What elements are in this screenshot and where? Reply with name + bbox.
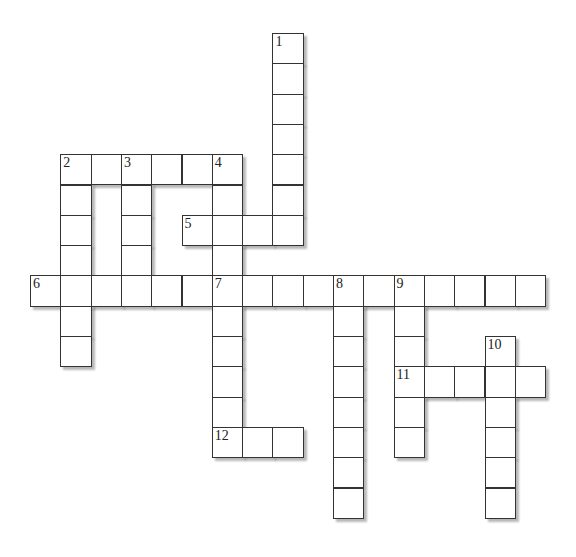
crossword-cell[interactable] — [60, 215, 91, 246]
crossword-cell[interactable] — [272, 215, 303, 246]
crossword-cell[interactable]: 10 — [485, 336, 516, 367]
crossword-cell[interactable] — [454, 275, 485, 306]
crossword-cell[interactable] — [182, 154, 213, 185]
crossword-cell[interactable] — [212, 245, 243, 276]
crossword-cell[interactable] — [60, 185, 91, 216]
crossword-cell[interactable] — [121, 185, 152, 216]
crossword-cell[interactable] — [60, 306, 91, 337]
crossword-cell[interactable] — [60, 245, 91, 276]
clue-number: 2 — [63, 155, 70, 171]
clue-number: 6 — [33, 276, 40, 292]
crossword-cell[interactable] — [333, 427, 364, 458]
clue-number: 7 — [215, 276, 222, 292]
crossword-cell[interactable] — [394, 336, 425, 367]
crossword-cell[interactable] — [121, 245, 152, 276]
crossword-cell[interactable] — [212, 397, 243, 428]
crossword-cell[interactable] — [272, 275, 303, 306]
crossword-cell[interactable]: 5 — [182, 215, 213, 246]
clue-number: 11 — [397, 367, 410, 383]
clue-number: 8 — [336, 276, 343, 292]
clue-number: 5 — [185, 216, 192, 232]
crossword-cell[interactable] — [485, 427, 516, 458]
crossword-cell[interactable]: 12 — [212, 427, 243, 458]
crossword-cell[interactable] — [272, 154, 303, 185]
crossword-cell[interactable]: 9 — [394, 275, 425, 306]
clue-number: 9 — [397, 276, 404, 292]
crossword-cell[interactable] — [333, 457, 364, 488]
crossword-cell[interactable] — [394, 306, 425, 337]
crossword-cell[interactable] — [333, 306, 364, 337]
crossword-cell[interactable] — [91, 275, 122, 306]
crossword-cell[interactable] — [242, 427, 273, 458]
crossword-cell[interactable] — [212, 366, 243, 397]
crossword-cell[interactable] — [515, 275, 546, 306]
crossword-cell[interactable] — [60, 336, 91, 367]
crossword-cell[interactable] — [485, 488, 516, 519]
crossword-cell[interactable] — [454, 366, 485, 397]
crossword-cell[interactable] — [212, 306, 243, 337]
crossword-cell[interactable] — [333, 366, 364, 397]
crossword-cell[interactable]: 11 — [394, 366, 425, 397]
crossword-cell[interactable] — [485, 275, 516, 306]
crossword-cell[interactable] — [60, 275, 91, 306]
clue-number: 1 — [275, 34, 282, 50]
crossword-cell[interactable] — [363, 275, 394, 306]
clue-number: 10 — [488, 337, 502, 353]
crossword-cell[interactable]: 8 — [333, 275, 364, 306]
crossword-cell[interactable] — [151, 154, 182, 185]
crossword-cell[interactable]: 4 — [212, 154, 243, 185]
clue-number: 12 — [215, 428, 229, 444]
crossword-cell[interactable] — [272, 185, 303, 216]
crossword-cell[interactable] — [272, 124, 303, 155]
crossword-cell[interactable] — [333, 488, 364, 519]
crossword-cell[interactable] — [212, 336, 243, 367]
crossword-cell[interactable] — [242, 275, 273, 306]
clue-number: 4 — [215, 155, 222, 171]
clue-number: 3 — [124, 155, 131, 171]
crossword-cell[interactable] — [485, 397, 516, 428]
crossword-cell[interactable] — [121, 275, 152, 306]
crossword-cell[interactable] — [182, 275, 213, 306]
crossword-cell[interactable] — [394, 427, 425, 458]
crossword-cell[interactable] — [424, 366, 455, 397]
crossword-cell[interactable]: 7 — [212, 275, 243, 306]
crossword-cell[interactable] — [394, 397, 425, 428]
crossword-cell[interactable] — [91, 154, 122, 185]
crossword-cell[interactable] — [485, 366, 516, 397]
crossword-cell[interactable]: 6 — [30, 275, 61, 306]
crossword-cell[interactable] — [272, 427, 303, 458]
crossword-cell[interactable]: 1 — [272, 33, 303, 64]
crossword-cell[interactable] — [212, 185, 243, 216]
crossword-cell[interactable] — [212, 215, 243, 246]
crossword-cell[interactable] — [303, 275, 334, 306]
crossword-cell[interactable] — [424, 275, 455, 306]
crossword-cell[interactable] — [333, 336, 364, 367]
crossword-cell[interactable] — [151, 275, 182, 306]
crossword-cell[interactable] — [515, 366, 546, 397]
crossword-cell[interactable] — [333, 397, 364, 428]
crossword-cell[interactable]: 2 — [60, 154, 91, 185]
crossword-cell[interactable] — [121, 215, 152, 246]
crossword-cell[interactable] — [272, 63, 303, 94]
crossword-cell[interactable] — [272, 94, 303, 125]
crossword-cell[interactable]: 3 — [121, 154, 152, 185]
crossword-cell[interactable] — [485, 457, 516, 488]
crossword-grid: 123471256891110 — [0, 0, 576, 557]
crossword-cell[interactable] — [242, 215, 273, 246]
